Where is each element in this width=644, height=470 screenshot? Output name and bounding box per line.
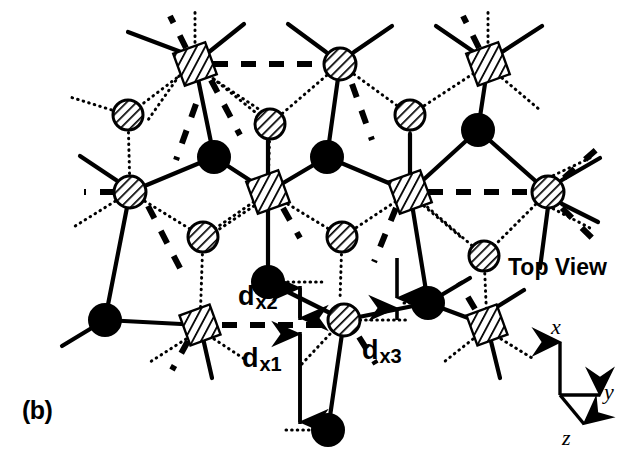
solid-stub (436, 26, 474, 52)
dashed-stub (148, 206, 182, 272)
distance-label-dx2: dx2 (238, 283, 278, 312)
dashed-stub (463, 16, 479, 48)
solid-stub (562, 158, 600, 180)
dx1-subscript: x1 (260, 353, 282, 375)
dotted-stub (501, 339, 532, 358)
dx2-subscript: x2 (256, 291, 278, 313)
top-view-label: Top View (508, 256, 607, 279)
figure-container: (b) Top View dx1 dx2 dx3 x y z (0, 0, 644, 470)
atom-filled-circle (462, 114, 494, 146)
atom-hatched-circle (469, 241, 499, 271)
dashed-stub (176, 104, 196, 160)
dashed-stub (459, 282, 475, 309)
panel-label: (b) (22, 398, 52, 423)
axis-z-label: z (562, 427, 571, 449)
solid-bond (105, 192, 130, 320)
solid-stub (288, 24, 326, 52)
atom-hatched-circle (188, 222, 218, 252)
atom-layer (89, 42, 564, 446)
solid-stub (209, 24, 244, 52)
dashed-stub (211, 80, 240, 135)
dotted-stub (300, 334, 330, 366)
lattice-diagram (0, 0, 644, 470)
dotted-stub (215, 206, 254, 232)
dx3-base: d (362, 335, 379, 365)
distance-label-dx3: dx3 (362, 337, 402, 366)
solid-stub (80, 156, 116, 180)
solid-stub (502, 26, 542, 52)
dx2-base: d (238, 281, 255, 311)
dashed-stub (374, 208, 396, 262)
dashed-stub (352, 84, 372, 140)
atom-hatched-circle (395, 100, 425, 130)
dotted-stub (148, 76, 179, 120)
atom-filled-circle (311, 141, 343, 173)
dotted-stub (502, 78, 540, 110)
solid-stub (128, 32, 181, 52)
atom-hatched-circle (324, 48, 356, 80)
dashed-stub (283, 208, 300, 238)
solid-stub (354, 26, 392, 52)
axis-indicator (560, 342, 600, 424)
atom-filled-circle (89, 304, 121, 336)
guide-line-dotted (282, 282, 440, 430)
atom-hatched-circle (114, 176, 146, 208)
atom-hatched-circle (327, 222, 357, 252)
axis-y-label: y (604, 381, 614, 403)
axis-z-arrow (560, 395, 584, 424)
distance-label-dx1: dx1 (242, 345, 282, 374)
dx1-base: d (242, 343, 259, 373)
atom-hatched-circle (255, 109, 285, 139)
dotted-stub (424, 206, 462, 238)
dx3-subscript: x3 (380, 345, 402, 367)
atom-hatched-circle (113, 100, 143, 130)
atom-filled-circle (312, 414, 344, 446)
dashed-stub (170, 16, 186, 48)
atom-hatched-circle (532, 176, 564, 208)
atom-filled-circle (198, 141, 230, 173)
dotted-stub (444, 339, 473, 362)
axis-x-label: x (551, 316, 561, 338)
atom-hatched-circle (328, 304, 360, 336)
